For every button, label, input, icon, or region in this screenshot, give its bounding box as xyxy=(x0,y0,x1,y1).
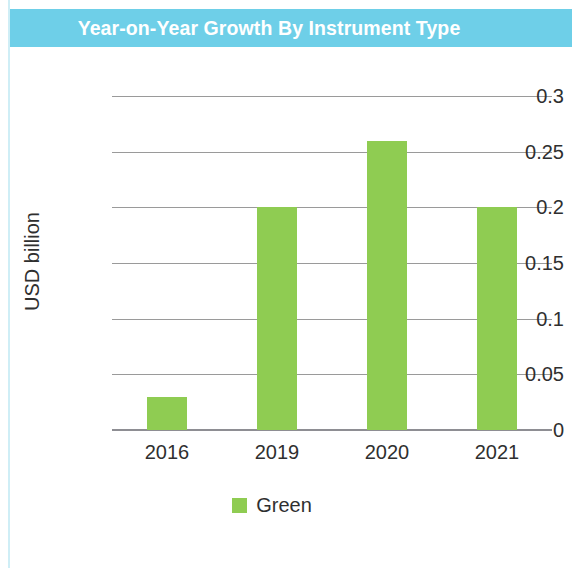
chart-legend: Green xyxy=(0,494,558,517)
bar xyxy=(257,207,297,430)
legend-item[interactable]: Green xyxy=(232,494,312,517)
bars-layer xyxy=(112,96,552,430)
bar xyxy=(367,141,407,430)
x-axis-tick-label: 2021 xyxy=(447,441,547,464)
legend-label: Green xyxy=(256,494,312,517)
plot-area: 0.30.250.20.150.10.050 USD billion 20162… xyxy=(0,0,572,568)
chart-figure: Year-on-Year Growth By Instrument Type 0… xyxy=(0,0,572,568)
legend-swatch-icon xyxy=(232,498,247,513)
bar xyxy=(147,397,187,430)
x-axis-tick-label: 2019 xyxy=(227,441,327,464)
y-axis-title: USD billion xyxy=(21,182,44,342)
x-axis-tick-label: 2016 xyxy=(117,441,217,464)
bar xyxy=(477,207,517,430)
x-axis-tick-label: 2020 xyxy=(337,441,437,464)
